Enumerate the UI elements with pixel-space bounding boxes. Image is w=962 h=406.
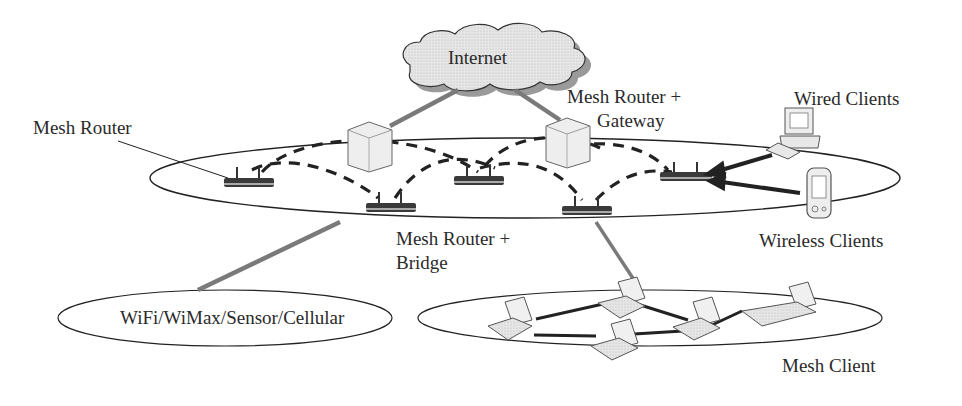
other-networks-label: WiFi/WiMax/Sensor/Cellular — [120, 307, 344, 329]
wired-clients-label: Wired Clients — [794, 88, 899, 110]
laptop-icon — [591, 319, 638, 360]
mesh-router-label: Mesh Router — [33, 117, 132, 139]
laptop-icon — [742, 282, 816, 326]
desktop-computer-icon — [766, 108, 820, 159]
laptop-icon — [598, 277, 645, 318]
pda-device-icon — [807, 168, 831, 218]
wired-link-internet-gateway — [515, 90, 560, 120]
bridge-label-line1: Mesh Router + — [396, 228, 510, 250]
mesh-router-pointer — [118, 141, 228, 178]
client-arrows — [708, 155, 800, 193]
bridge-label-line2: Bridge — [396, 252, 448, 274]
lower-right-router-icon — [562, 196, 612, 215]
mesh-client-label: Mesh Client — [782, 355, 875, 377]
wireless-mesh-links — [252, 138, 672, 200]
gateway-server-icon — [546, 118, 590, 168]
gateway-label-line1: Mesh Router + — [567, 86, 681, 108]
wireless-clients-label: Wireless Clients — [759, 230, 883, 252]
internet-label: Internet — [448, 47, 507, 69]
laptop-icon — [488, 297, 532, 340]
center-router-icon — [454, 165, 504, 185]
router-link-mesh-client — [596, 222, 638, 286]
gateway-label-line2: Gateway — [597, 110, 665, 132]
wired-link-internet-server1 — [390, 90, 458, 126]
server-icon — [348, 122, 392, 172]
bridge-link-other-networks — [198, 222, 340, 290]
mesh-router-icon — [224, 167, 274, 187]
bridge-router-icon — [366, 192, 416, 212]
